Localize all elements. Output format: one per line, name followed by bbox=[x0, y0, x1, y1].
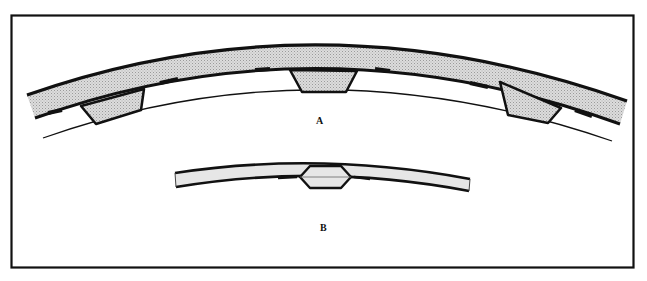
panel-a-label: A bbox=[316, 115, 323, 126]
panel-a-insert-center bbox=[290, 70, 357, 92]
panel-a-pad-mark bbox=[255, 69, 270, 70]
figure-canvas bbox=[0, 0, 647, 281]
panel-b-label: B bbox=[320, 222, 327, 233]
panel-b-drawing bbox=[175, 163, 470, 191]
panel-b-pad-mark bbox=[278, 177, 297, 178]
panel-a-pad-mark bbox=[375, 69, 390, 71]
panel-a-drawing bbox=[27, 45, 627, 141]
